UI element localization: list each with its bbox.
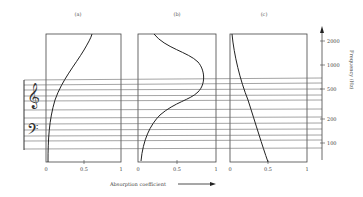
- y-axis-label: Frequency (Hz): [348, 50, 355, 90]
- panel-b-frame: [138, 34, 216, 162]
- absorption-diagram: 𝄞 𝄢 0 0.5 1 0 0.5 1 0 0.5 1 (a) (b) (c) …: [0, 0, 363, 197]
- freq-tick-1000: 1000: [327, 62, 340, 68]
- freq-tick-200: 200: [327, 116, 337, 122]
- panel-c-label: (c): [261, 11, 268, 17]
- panel-c-tick-0: 0: [228, 166, 231, 172]
- arrow-up-icon: [320, 26, 324, 33]
- arrow-right-icon: [210, 182, 216, 186]
- freq-tick-2000: 2000: [327, 38, 340, 44]
- curve-b: [141, 34, 204, 161]
- curve-a: [48, 34, 92, 162]
- panel-c-tick-05: 0.5: [264, 166, 272, 172]
- panel-b-label: (b): [173, 11, 180, 17]
- panel-b-tick-05: 0.5: [173, 166, 181, 172]
- x-axis-label: Absorption coefficient: [109, 181, 166, 188]
- curve-c: [232, 34, 268, 162]
- freq-tick-100: 100: [327, 140, 337, 146]
- panel-b-tick-1: 1: [214, 166, 217, 172]
- panel-c-tick-1: 1: [305, 166, 308, 172]
- panel-a-label: (a): [75, 11, 82, 17]
- panel-a-tick-1: 1: [119, 166, 122, 172]
- panel-a-frame: [46, 34, 121, 162]
- panel-a-tick-0: 0: [44, 166, 47, 172]
- panel-b-tick-0: 0: [136, 166, 139, 172]
- bass-clef-icon: 𝄢: [27, 120, 39, 141]
- freq-tick-500: 500: [327, 86, 337, 92]
- panel-c-frame: [230, 34, 307, 162]
- treble-clef-icon: 𝄞: [27, 83, 40, 109]
- panel-a-tick-05: 0.5: [80, 166, 88, 172]
- staff-lines: [24, 78, 322, 149]
- frequency-ticks: [320, 41, 325, 143]
